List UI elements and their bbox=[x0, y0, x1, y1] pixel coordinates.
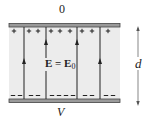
capacitor-diagram: 0 V d E = E0 bbox=[0, 0, 148, 121]
field-equation-subscript: 0 bbox=[71, 62, 75, 71]
bottom-plate bbox=[9, 99, 120, 103]
top-plate bbox=[9, 24, 120, 28]
top-plate-potential-label: 0 bbox=[59, 3, 65, 15]
field-equation-label: E = E0 bbox=[44, 58, 76, 71]
bottom-plate-potential-label: V bbox=[57, 106, 64, 118]
separation-label: d bbox=[134, 57, 143, 70]
field-equation-main: E = E bbox=[45, 57, 71, 69]
